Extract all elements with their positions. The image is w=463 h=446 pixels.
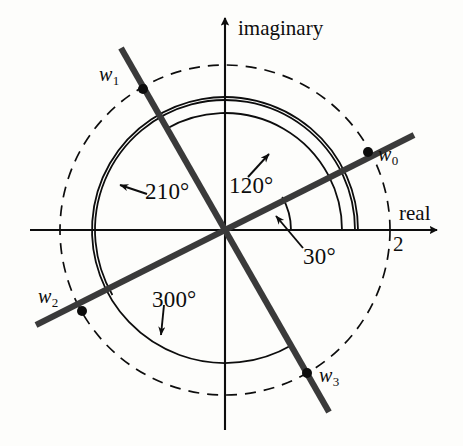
root-label-w0: w0: [378, 144, 398, 164]
angle-label-30: 30°: [303, 245, 336, 268]
root-label-w3: w3: [319, 365, 339, 385]
root-label-w1: w1: [99, 64, 119, 84]
imaginary-axis-label: imaginary: [238, 18, 323, 39]
root-point-w2[interactable]: [77, 306, 87, 316]
root-label-w0-base: w: [378, 143, 391, 165]
root-label-w0-index: 0: [392, 153, 399, 168]
root-label-w1-index: 1: [113, 73, 120, 88]
root-label-w3-index: 3: [333, 374, 340, 389]
root-label-w1-base: w: [99, 63, 112, 85]
figure-canvas: imaginary real 2 120° 210° 30° 300° w0 w…: [0, 0, 463, 446]
angle-label-300: 300°: [152, 288, 197, 311]
root-label-w2: w2: [38, 286, 58, 306]
arrow-to-arc-210: [120, 185, 147, 194]
angle-label-120: 120°: [229, 174, 274, 197]
real-axis-label: real: [399, 203, 430, 224]
angle-label-210: 210°: [145, 180, 190, 203]
root-label-w3-base: w: [319, 364, 332, 386]
root-label-w2-index: 2: [52, 295, 59, 310]
root-point-w3[interactable]: [302, 368, 312, 378]
root-point-w0[interactable]: [363, 147, 373, 157]
root-point-w1[interactable]: [138, 84, 148, 94]
real-axis-tick-2: 2: [393, 234, 404, 255]
complex-plane-drawing: [0, 0, 463, 446]
root-label-w2-base: w: [38, 285, 51, 307]
